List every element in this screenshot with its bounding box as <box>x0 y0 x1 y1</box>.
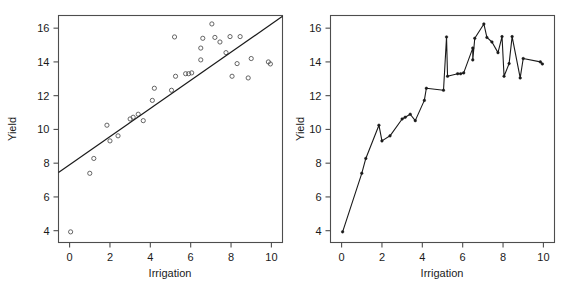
data-point <box>389 135 392 138</box>
x-tick-label: 6 <box>460 251 466 263</box>
x-tick-label: 2 <box>379 251 385 263</box>
data-point <box>503 75 506 78</box>
data-point <box>522 57 525 60</box>
x-axis-label-left: Irrigation <box>149 267 192 279</box>
y-tick-label: 12 <box>309 90 321 102</box>
data-point <box>150 98 154 102</box>
x-tick-label: 0 <box>67 251 73 263</box>
data-point <box>409 113 412 116</box>
data-point <box>230 74 234 78</box>
data-point <box>471 47 474 50</box>
data-point <box>486 36 489 39</box>
y-tick-label: 6 <box>43 191 49 203</box>
x-tick-label: 6 <box>188 251 194 263</box>
series-polyline <box>343 24 543 232</box>
y-axis-ticks-right: 46810121416 <box>309 22 330 237</box>
x-tick-label: 8 <box>228 251 234 263</box>
data-point <box>141 119 145 123</box>
x-axis-ticks-right: 0246810 <box>339 243 550 263</box>
data-point <box>218 40 222 44</box>
data-point <box>508 62 511 65</box>
data-point <box>501 35 504 38</box>
data-point <box>381 140 384 143</box>
y-tick-label: 16 <box>309 22 321 34</box>
x-tick-label: 4 <box>419 251 425 263</box>
data-point <box>341 231 344 234</box>
y-tick-label: 14 <box>37 56 49 68</box>
data-point <box>228 34 232 38</box>
data-point <box>473 37 476 40</box>
x-axis-label-right: Irrigation <box>421 267 464 279</box>
data-point <box>201 36 205 40</box>
regression-line <box>59 16 283 172</box>
data-point <box>378 124 381 127</box>
data-point <box>483 23 486 26</box>
data-point <box>173 74 177 78</box>
data-point <box>404 116 407 119</box>
line-markers <box>341 23 543 234</box>
data-point <box>199 46 203 50</box>
data-point <box>541 63 544 66</box>
data-point <box>116 134 120 138</box>
x-axis-ticks-left: 0246810 <box>67 243 278 263</box>
data-point <box>511 35 514 38</box>
data-point <box>401 118 404 121</box>
y-tick-label: 12 <box>37 90 49 102</box>
y-tick-label: 16 <box>37 22 49 34</box>
data-point <box>497 51 500 54</box>
plot-frame-right <box>331 16 555 243</box>
line-plot-svg: 0246810 46810121416 Irrigation Yield <box>292 0 583 291</box>
data-point <box>459 72 462 75</box>
data-point <box>365 157 368 160</box>
data-point <box>88 171 92 175</box>
data-point <box>249 56 253 60</box>
x-tick-label: 2 <box>107 251 113 263</box>
scatter-panel: 0246810 46810121416 Irrigation Yield <box>0 0 292 291</box>
data-point <box>105 123 109 127</box>
y-tick-label: 8 <box>315 157 321 169</box>
y-tick-label: 6 <box>315 191 321 203</box>
data-point <box>462 72 465 75</box>
y-tick-label: 8 <box>43 157 49 169</box>
y-tick-label: 4 <box>315 225 321 237</box>
data-point <box>238 34 242 38</box>
y-tick-label: 14 <box>309 56 321 68</box>
x-tick-label: 4 <box>147 251 153 263</box>
y-tick-label: 10 <box>309 123 321 135</box>
line-panel: 0246810 46810121416 Irrigation Yield <box>292 0 583 291</box>
data-point <box>414 119 417 122</box>
data-point <box>246 76 250 80</box>
data-point <box>425 87 428 90</box>
data-point <box>152 86 156 90</box>
data-point <box>69 230 73 234</box>
data-point <box>491 41 494 44</box>
data-point <box>456 72 459 75</box>
data-point <box>210 22 214 26</box>
data-point <box>471 59 474 62</box>
data-point <box>445 36 448 39</box>
y-tick-label: 10 <box>37 123 49 135</box>
plot-frame-left <box>59 16 283 243</box>
y-axis-label-right: Yield <box>294 117 306 141</box>
y-axis-label-left: Yield <box>6 117 18 141</box>
data-point <box>213 35 217 39</box>
scatter-points <box>69 22 273 234</box>
data-point <box>108 139 112 143</box>
x-tick-label: 8 <box>500 251 506 263</box>
data-point <box>519 77 522 80</box>
figure-container: 0246810 46810121416 Irrigation Yield 024… <box>0 0 583 291</box>
scatter-plot-svg: 0246810 46810121416 Irrigation Yield <box>0 0 292 291</box>
y-tick-label: 4 <box>43 225 49 237</box>
data-point <box>92 156 96 160</box>
data-point <box>446 75 449 78</box>
data-point <box>172 35 176 39</box>
x-tick-label: 10 <box>265 251 277 263</box>
data-point <box>199 58 203 62</box>
x-tick-label: 0 <box>339 251 345 263</box>
data-point <box>360 172 363 175</box>
data-point <box>539 61 542 64</box>
data-point <box>169 88 173 92</box>
data-point <box>423 99 426 102</box>
x-tick-label: 10 <box>537 251 549 263</box>
y-axis-ticks-left: 46810121416 <box>37 22 58 237</box>
